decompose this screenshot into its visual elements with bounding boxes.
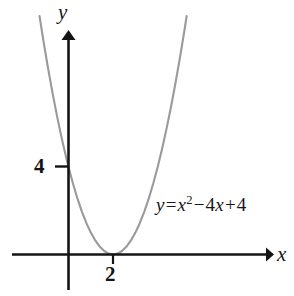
equation-coefficient: 4 xyxy=(206,194,216,215)
parabola-figure: y x 4 2 y=x2−4x+4 xyxy=(0,0,294,296)
x-axis-label: x xyxy=(277,244,286,265)
y-axis-arrowhead xyxy=(62,30,76,40)
equation-plus-sign: + xyxy=(224,194,237,215)
equation-variable-linear: x xyxy=(215,194,224,215)
x-tick-label-2: 2 xyxy=(105,264,116,285)
equation-annotation: y=x2−4x+4 xyxy=(156,194,247,216)
equation-exponent: 2 xyxy=(186,193,192,207)
coordinate-plot xyxy=(0,0,294,296)
y-axis-label: y xyxy=(58,2,67,23)
y-tick-label-4: 4 xyxy=(34,156,45,177)
equation-constant: 4 xyxy=(237,194,247,215)
equation-minus-sign: − xyxy=(193,194,206,215)
equation-equals: = xyxy=(165,194,178,215)
equation-lhs: y xyxy=(156,194,165,215)
equation-variable: x xyxy=(178,194,187,215)
x-axis-arrowhead xyxy=(266,248,274,262)
parabola-curve xyxy=(40,16,187,254)
